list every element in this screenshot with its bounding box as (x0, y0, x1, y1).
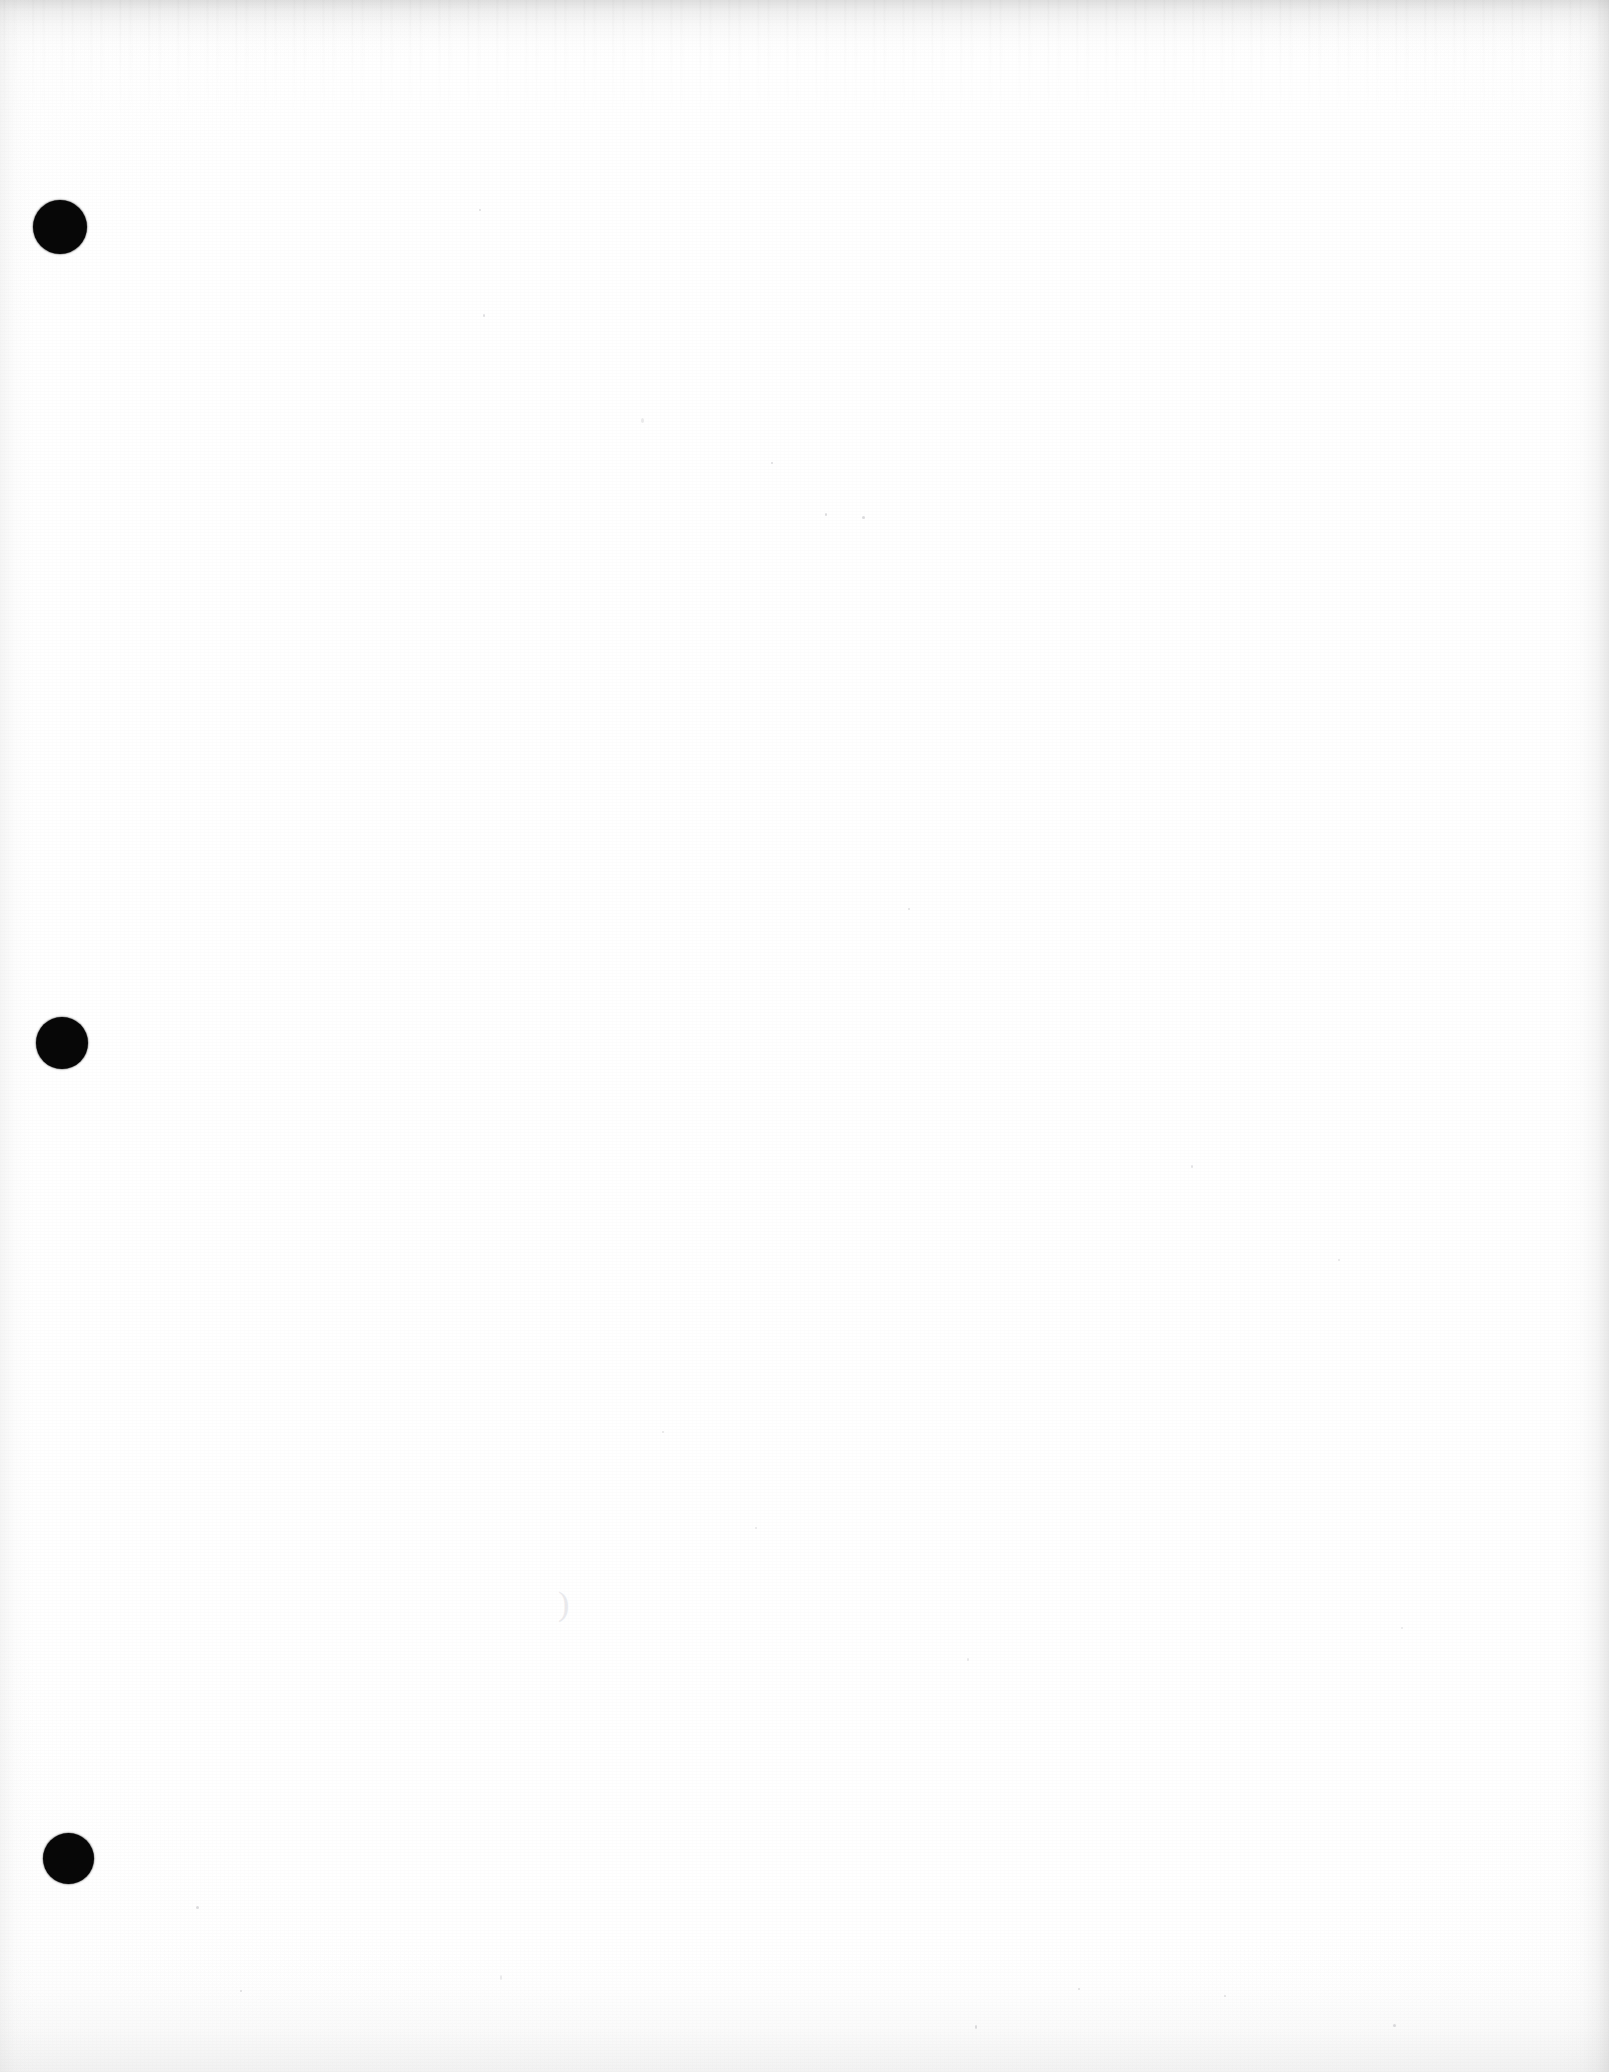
dust-speck (908, 908, 910, 910)
paper-grain-texture (0, 0, 1609, 2072)
dust-speck (1224, 1995, 1226, 1997)
top-edge-scan-streaks (0, 0, 1609, 120)
dust-speck (1078, 1988, 1080, 1990)
punch-hole-middle-icon (36, 1017, 88, 1069)
scanned-page: ) (0, 0, 1609, 2072)
dust-speck (483, 314, 485, 317)
bottom-edge-scan-band (0, 1942, 1609, 2072)
dust-speck (825, 513, 827, 516)
dust-speck (1338, 1259, 1340, 1261)
dust-speck (755, 1527, 757, 1529)
dust-speck (240, 1990, 242, 1992)
dust-speck (500, 1975, 502, 1980)
dust-speck (1401, 1627, 1403, 1629)
right-edge-scan-band (1563, 0, 1609, 2072)
dust-speck (975, 2025, 977, 2029)
dust-speck (1393, 2024, 1396, 2027)
punch-hole-bottom-icon (43, 1833, 94, 1884)
dust-speck (641, 418, 644, 423)
dust-speck (862, 516, 865, 519)
left-edge-scan-band (0, 0, 34, 2072)
dust-speck (479, 209, 481, 211)
punch-hole-top-icon (33, 200, 87, 254)
faint-pencil-squiggle: ) (558, 1587, 569, 1621)
dust-speck (662, 1431, 664, 1433)
dust-speck (771, 462, 773, 464)
dust-speck (1191, 1165, 1193, 1168)
dust-speck (196, 1906, 199, 1909)
dust-speck (967, 1658, 969, 1661)
